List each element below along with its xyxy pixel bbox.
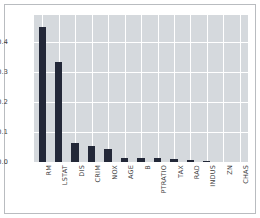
bar-b	[137, 158, 144, 162]
bar-nox	[104, 149, 111, 162]
x-tick-label-lstat: LSTAT	[61, 165, 69, 185]
x-tick-label-nox: NOX	[111, 165, 119, 180]
x-tick-label-crim: CRIM	[94, 165, 102, 182]
bar-age	[121, 158, 128, 162]
x-tick-label-b: B	[144, 165, 152, 170]
x-tick-label-dis: DIS	[78, 165, 86, 177]
y-tick-label-0.3: 0.3	[0, 69, 8, 76]
x-tick-label-rm: RM	[45, 165, 53, 176]
plot-area	[34, 15, 248, 162]
bar-crim	[88, 146, 95, 163]
chart-figure: 0.00.10.20.30.4 RMLSTATDISCRIMNOXAGEBPTR…	[0, 0, 260, 218]
bar-ptratio	[154, 158, 161, 162]
x-tick-label-chas: CHAS	[242, 165, 250, 184]
y-tick-label-0.4: 0.4	[0, 39, 8, 46]
y-tick-label-0.0: 0.0	[0, 159, 8, 166]
y-tick-label-0.1: 0.1	[0, 129, 8, 136]
x-tick-label-age: AGE	[127, 165, 135, 179]
x-tick-label-zn: ZN	[226, 165, 234, 175]
bar-dis	[71, 143, 78, 163]
bar-rad	[187, 160, 194, 162]
bar-series	[34, 15, 248, 162]
x-tick-label-indus: INDUS	[209, 165, 217, 187]
x-tick-label-tax: TAX	[177, 165, 185, 178]
bar-rm	[39, 27, 46, 162]
x-tick-label-ptratio: PTRATIO	[160, 165, 168, 194]
bar-lstat	[55, 62, 62, 163]
y-tick-label-0.2: 0.2	[0, 99, 8, 106]
bar-tax	[170, 159, 177, 162]
x-tick-label-rad: RAD	[193, 165, 201, 179]
bar-indus	[203, 161, 210, 163]
